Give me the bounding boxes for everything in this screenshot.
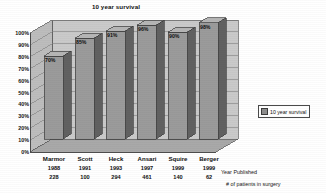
category-patients: 228 xyxy=(37,173,71,182)
bar-scott xyxy=(75,33,102,139)
category-year: 1997 xyxy=(130,164,164,173)
category-year: 1988 xyxy=(37,164,71,173)
bar-berger xyxy=(199,18,226,139)
legend-swatch-icon xyxy=(261,108,268,115)
category-year: 1993 xyxy=(99,164,133,173)
row-label-patients: # of patients in surgery xyxy=(226,181,281,187)
y-axis-labels: 100% 90% 80% 70% 60% 50% 40% 30% 20% 10%… xyxy=(0,0,29,175)
plot-area: 100% 90% 80% 70% 60% 50% 40% 30% 20% 10%… xyxy=(0,0,260,175)
y-tick-90: 90% xyxy=(3,42,29,48)
category-column-marmor: Marmor 1988 228 xyxy=(37,155,71,182)
bar-value-scott: 85% xyxy=(76,39,86,45)
plot-svg xyxy=(0,0,260,175)
y-tick-50: 50% xyxy=(3,90,29,96)
y-tick-40: 40% xyxy=(3,101,29,107)
plot-floor xyxy=(30,139,238,152)
bar-value-heck: 91% xyxy=(107,32,117,38)
category-name: Squire xyxy=(161,155,195,164)
chart-legend: 10 year survival xyxy=(258,105,310,118)
category-name: Scott xyxy=(68,155,102,164)
bar-marmor xyxy=(44,51,71,139)
category-patients: 294 xyxy=(99,173,133,182)
bar-ansari xyxy=(137,20,164,139)
bar-value-squire: 90% xyxy=(169,33,179,39)
bar-value-marmor: 70% xyxy=(45,57,55,63)
category-patients: 461 xyxy=(130,173,164,182)
bar-heck xyxy=(106,26,133,139)
y-tick-70: 70% xyxy=(3,66,29,72)
bar-value-berger: 98% xyxy=(200,24,210,30)
y-tick-60: 60% xyxy=(3,78,29,84)
y-tick-30: 30% xyxy=(3,113,29,119)
row-label-year-published: Year Published xyxy=(221,169,257,175)
category-name: Marmor xyxy=(37,155,71,164)
y-tick-10: 10% xyxy=(3,137,29,143)
chart-container: 10 year survival xyxy=(0,0,326,193)
y-tick-100: 100% xyxy=(3,30,29,36)
category-column-scott: Scott 1991 100 xyxy=(68,155,102,182)
category-patients: 140 xyxy=(161,173,195,182)
bar-value-ansari: 96% xyxy=(138,26,148,32)
category-column-squire: Squire 1999 140 xyxy=(161,155,195,182)
category-year: 1999 xyxy=(161,164,195,173)
category-name: Ansari xyxy=(130,155,164,164)
category-name: Heck xyxy=(99,155,133,164)
y-tick-80: 80% xyxy=(3,54,29,60)
legend-label: 10 year survival xyxy=(270,109,306,115)
category-patients: 100 xyxy=(68,173,102,182)
category-axis: Marmor 1988 228 Scott 1991 100 Heck 1993… xyxy=(26,155,216,193)
bar-squire xyxy=(168,27,195,139)
category-name: Berger xyxy=(192,155,226,164)
y-tick-20: 20% xyxy=(3,125,29,131)
category-column-ansari: Ansari 1997 461 xyxy=(130,155,164,182)
category-column-heck: Heck 1993 294 xyxy=(99,155,133,182)
category-year: 1991 xyxy=(68,164,102,173)
